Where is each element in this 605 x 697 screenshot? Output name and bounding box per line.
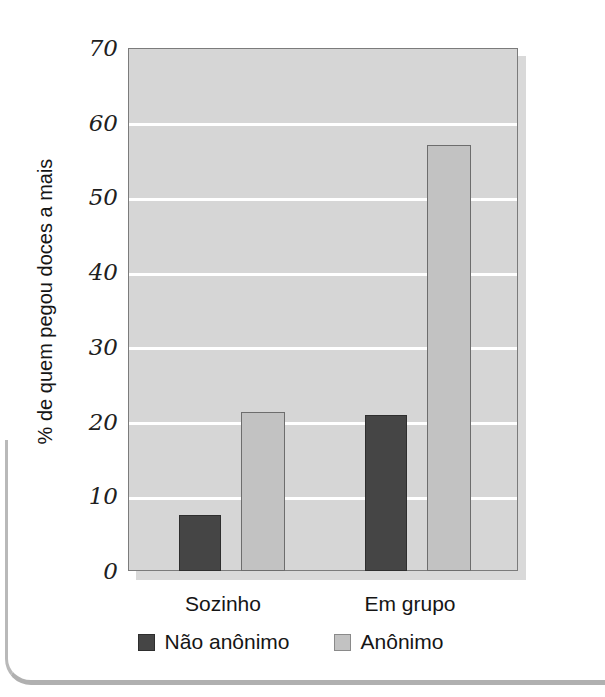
y-tick-label-40: 40 — [62, 259, 118, 285]
legend-label-anonimo: Anônimo — [361, 630, 444, 654]
bar-sozinho-anonimo[interactable] — [241, 412, 285, 571]
y-tick-label-50: 50 — [62, 184, 118, 210]
dark-square-swatch-icon — [138, 634, 155, 651]
bar-em-grupo-nao-anonimo[interactable] — [365, 415, 407, 571]
light-square-swatch-icon — [334, 634, 351, 651]
y-tick-label-10: 10 — [62, 483, 118, 509]
y-tick-label-60: 60 — [62, 110, 118, 136]
y-tick-label-0: 0 — [62, 558, 118, 584]
plot-area — [128, 48, 518, 571]
chart-legend: Não anônimo Anônimo — [0, 630, 581, 654]
bar-sozinho-nao-anonimo[interactable] — [179, 515, 221, 571]
gridline-60 — [129, 123, 517, 126]
y-tick-label-70: 70 — [62, 35, 118, 61]
legend-label-nao-anonimo: Não anônimo — [165, 630, 290, 654]
y-axis-title: % de quem pegou doces a mais — [34, 82, 57, 522]
y-tick-label-20: 20 — [62, 409, 118, 435]
bar-em-grupo-anonimo[interactable] — [427, 145, 471, 571]
legend-item-anonimo[interactable]: Anônimo — [334, 630, 444, 654]
x-tick-label-em-grupo: Em grupo — [300, 592, 520, 616]
legend-item-nao-anonimo[interactable]: Não anônimo — [138, 630, 290, 654]
y-tick-label-30: 30 — [62, 334, 118, 360]
